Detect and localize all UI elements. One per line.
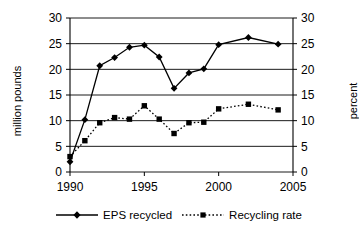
svg-text:10: 10 [301,114,315,128]
data-series [67,34,282,165]
diamond-marker-icon [55,209,99,221]
svg-text:1990: 1990 [57,180,84,194]
svg-text:1995: 1995 [131,180,158,194]
svg-text:30: 30 [49,11,63,25]
svg-text:15: 15 [301,88,315,102]
square-marker-icon [181,209,225,221]
svg-text:2000: 2000 [205,180,232,194]
svg-text:5: 5 [55,140,62,154]
tick-labels: 0510152025300510152025301990199520002005 [49,11,315,194]
svg-text:0: 0 [55,165,62,179]
svg-text:2005: 2005 [280,180,307,194]
legend-item-eps-recycled: EPS recycled [55,209,172,221]
legend-item-recycling-rate: Recycling rate [181,209,302,221]
tickmarks [66,18,297,176]
svg-text:20: 20 [301,63,315,77]
legend-label-recycling-rate: Recycling rate [229,209,302,221]
svg-text:10: 10 [49,114,63,128]
svg-text:25: 25 [49,37,63,51]
gridlines [70,18,293,172]
svg-text:30: 30 [301,11,315,25]
svg-text:25: 25 [301,37,315,51]
svg-text:5: 5 [301,140,308,154]
svg-text:20: 20 [49,63,63,77]
svg-text:0: 0 [301,165,308,179]
svg-text:15: 15 [49,88,63,102]
chart-legend: EPS recycled Recycling rate [0,203,357,227]
legend-label-eps-recycled: EPS recycled [103,209,172,221]
